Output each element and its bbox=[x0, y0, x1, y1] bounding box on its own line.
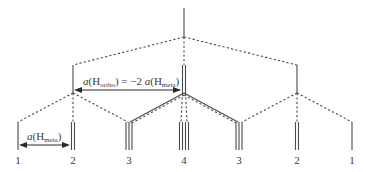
peak-label-4: 4 bbox=[181, 154, 187, 166]
arrowhead-left bbox=[19, 142, 27, 148]
meta-coupling-label: a(Hmeta) bbox=[27, 130, 62, 144]
branch-l2-c-right bbox=[297, 93, 352, 122]
peak-label-2: 2 bbox=[70, 154, 76, 166]
splitting-tree-diagram: 1 2 3 4 3 2 1 a(Hortho) = −2 a(Hmeta) a(… bbox=[0, 0, 366, 172]
peak-label-1: 1 bbox=[15, 154, 21, 166]
peak-2-right bbox=[296, 122, 299, 150]
peak-label-5: 3 bbox=[236, 154, 242, 166]
branch-l2-b-right bbox=[184, 93, 238, 122]
branch-l1-left bbox=[73, 37, 184, 65]
branch-l2-c-left bbox=[242, 93, 297, 122]
branch-l2-b-right2 bbox=[184, 95, 236, 123]
arrowhead-right bbox=[62, 142, 70, 148]
peak-labels: 1 2 3 4 3 2 1 bbox=[15, 154, 355, 166]
branch-l2-b-down-b bbox=[186, 93, 188, 122]
peak-label-6: 2 bbox=[294, 154, 300, 166]
level-1-branches bbox=[73, 37, 297, 65]
peak-4-center bbox=[180, 122, 189, 150]
ortho-coupling-label: a(Hortho) = −2 a(Hmeta) bbox=[83, 75, 179, 89]
arrowhead-left bbox=[74, 87, 82, 93]
branch-l2-b-left2 bbox=[132, 95, 184, 123]
branch-l2-a-right bbox=[73, 93, 128, 122]
peak-label-3: 3 bbox=[126, 154, 132, 166]
branch-l2-b-left bbox=[130, 93, 184, 122]
peak-2-left bbox=[72, 122, 75, 150]
peaks bbox=[18, 122, 352, 150]
branch-l1-right bbox=[184, 37, 297, 65]
level-2-branches bbox=[18, 93, 352, 123]
peak-3-right bbox=[236, 122, 242, 150]
peak-label-7: 1 bbox=[349, 154, 355, 166]
branch-l2-a-left bbox=[18, 93, 73, 122]
branch-l2-b-down-a bbox=[181, 93, 183, 122]
peak-3-left bbox=[126, 122, 132, 150]
